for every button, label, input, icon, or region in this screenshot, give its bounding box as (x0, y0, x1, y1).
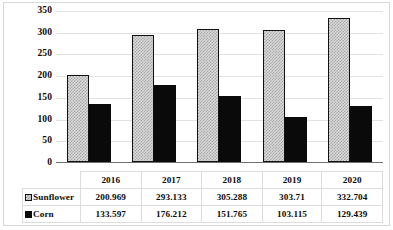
plot-wrapper: 350 300 250 200 150 100 50 0 (4, 3, 391, 171)
solid-black-square-icon (25, 211, 32, 218)
cell-corn-2016: 133.597 (81, 206, 142, 223)
bar-corn-2017[interactable] (154, 85, 176, 162)
cell-sunflower-2017: 293.133 (141, 189, 202, 206)
bar-series-group (56, 11, 383, 162)
y-axis-tick-label: 200 (6, 71, 52, 81)
table-header-2016: 2016 (81, 172, 142, 189)
bar-group-2018 (190, 11, 249, 162)
hatched-square-icon (25, 194, 32, 201)
bar-corn-2020[interactable] (350, 106, 372, 162)
cell-sunflower-2020: 332.704 (322, 189, 383, 206)
y-axis-tick-label: 150 (6, 93, 52, 103)
bar-group-2016 (59, 11, 118, 162)
y-axis-tick-label: 100 (6, 115, 52, 125)
bar-sunflower-2019[interactable] (263, 30, 285, 162)
y-axis-tick-label: 250 (6, 50, 52, 60)
table-corner-cell (23, 172, 81, 189)
bar-corn-2019[interactable] (285, 117, 307, 162)
cell-corn-2017: 176.212 (141, 206, 202, 223)
y-axis-tick-label: 300 (6, 28, 52, 38)
table-row-corn: Corn 133.597 176.212 151.765 103.115 129… (23, 206, 383, 223)
table-row-sunflower: Sunflower 200.969 293.133 305.288 303.71… (23, 189, 383, 206)
plot-area (56, 11, 383, 163)
bar-group-2020 (321, 11, 380, 162)
bar-group-2017 (125, 11, 184, 162)
y-axis-tick-label: 50 (6, 137, 52, 147)
cell-corn-2020: 129.439 (322, 206, 383, 223)
data-table: 2016 2017 2018 2019 2020 Sunflower 200.9… (22, 171, 383, 223)
bar-sunflower-2017[interactable] (132, 35, 154, 162)
series-label-sunflower: Sunflower (33, 192, 74, 202)
bar-corn-2016[interactable] (89, 104, 111, 162)
table-header-2018: 2018 (202, 172, 263, 189)
cell-corn-2018: 151.765 (202, 206, 263, 223)
legend-item-sunflower[interactable]: Sunflower (23, 189, 81, 206)
table-header-2019: 2019 (262, 172, 322, 189)
legend-item-corn[interactable]: Corn (23, 206, 81, 223)
cell-corn-2019: 103.115 (262, 206, 322, 223)
table-row-categories: 2016 2017 2018 2019 2020 (23, 172, 383, 189)
cell-sunflower-2019: 303.71 (262, 189, 322, 206)
table-header-2020: 2020 (322, 172, 383, 189)
chart-container: 350 300 250 200 150 100 50 0 (3, 2, 390, 226)
bar-corn-2018[interactable] (219, 96, 241, 162)
cell-sunflower-2018: 305.288 (202, 189, 263, 206)
bar-group-2019 (255, 11, 314, 162)
bar-sunflower-2016[interactable] (67, 75, 89, 162)
series-label-corn: Corn (33, 209, 54, 219)
bar-sunflower-2018[interactable] (197, 29, 219, 162)
y-axis-tick-label: 350 (6, 6, 52, 16)
cell-sunflower-2016: 200.969 (81, 189, 142, 206)
y-axis: 350 300 250 200 150 100 50 0 (4, 3, 56, 171)
bar-sunflower-2020[interactable] (328, 18, 350, 162)
table-header-2017: 2017 (141, 172, 202, 189)
y-axis-tick-label: 0 (6, 158, 52, 168)
